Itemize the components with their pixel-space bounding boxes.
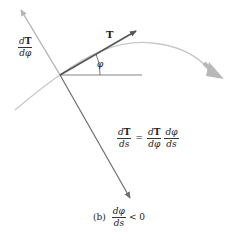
- curve-path: [15, 42, 205, 110]
- diagram-svg: [0, 0, 228, 235]
- equals-sign: =: [134, 134, 144, 143]
- phi-label: φ: [97, 60, 103, 69]
- dT-dphi-label: dT dφ: [18, 37, 32, 58]
- caption-fraction: dφ ds: [112, 207, 126, 228]
- curve-direction-arrow-icon: [204, 62, 224, 79]
- caption-relation: < 0: [129, 213, 145, 222]
- chain-rule-equation: dT ds = dT dφ dφ ds: [117, 128, 179, 149]
- figure-caption: (b) dφ ds < 0: [93, 207, 145, 228]
- caption-tag: (b): [93, 213, 106, 222]
- equation-rhs-first: dT dφ: [147, 128, 161, 149]
- diagram-figure: dT dφ T φ dT ds = dT dφ dφ ds (b) dφ ds …: [0, 0, 228, 235]
- equation-lhs: dT ds: [117, 128, 131, 149]
- T-label: T: [106, 30, 113, 40]
- equation-rhs-second: dφ ds: [164, 128, 178, 149]
